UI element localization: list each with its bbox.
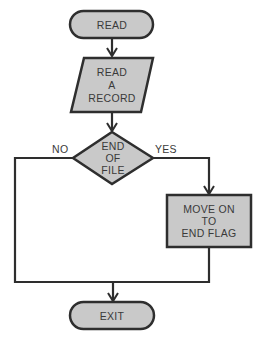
node-move-on-line-2: TO <box>202 215 217 227</box>
node-decision-line-2: OF <box>105 152 120 164</box>
flowchart: READ READ A RECORD END OF FILE NO YES MO… <box>0 0 264 338</box>
node-move-on-line-1: MOVE ON <box>183 203 235 215</box>
node-move-on-line-3: END FLAG <box>182 227 237 239</box>
edge-no-branch <box>15 158 113 282</box>
node-read-terminal: READ <box>70 11 153 38</box>
node-read-record-io: READ A RECORD <box>71 58 153 112</box>
label-no: NO <box>52 143 68 155</box>
node-decision-line-3: FILE <box>101 164 124 176</box>
node-decision-line-1: END <box>101 140 124 152</box>
node-read-record-line-3: RECORD <box>88 92 135 104</box>
node-read-record-line-2: A <box>108 79 115 91</box>
node-read-record-line-1: READ <box>97 66 127 78</box>
label-yes: YES <box>155 143 177 155</box>
node-move-on-process: MOVE ON TO END FLAG <box>167 195 251 247</box>
node-exit-label: EXIT <box>100 310 125 322</box>
edge-yes-branch <box>153 158 209 194</box>
node-exit-terminal: EXIT <box>70 302 154 329</box>
node-read-label: READ <box>97 19 127 31</box>
node-end-of-file-decision: END OF FILE <box>73 132 153 184</box>
edge-moveon-to-merge <box>113 247 209 282</box>
